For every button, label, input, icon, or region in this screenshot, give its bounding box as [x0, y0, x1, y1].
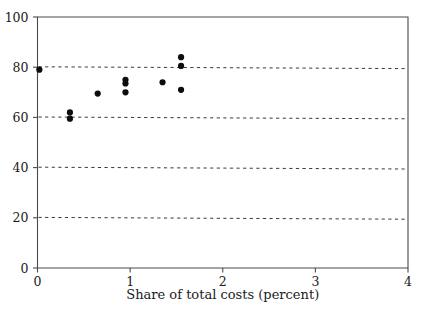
scatter-chart: 020406080100 01234 (0.02, 79)(0.35, 62)(… — [0, 0, 422, 312]
y-tick-label-40: 40 — [13, 160, 29, 175]
gridline-40 — [39, 167, 408, 169]
plot-frame — [38, 17, 409, 268]
data-point: (1.35, 74) — [159, 79, 165, 85]
axis-ticks — [33, 17, 408, 273]
x-tick-label-0: 0 — [34, 274, 42, 289]
y-tick-label-80: 80 — [13, 60, 29, 75]
gridline-20 — [39, 217, 408, 219]
data-point: (0.02, 79) — [36, 67, 42, 73]
y-tick-label-60: 60 — [13, 110, 29, 125]
x-tick-label-4: 4 — [404, 274, 412, 289]
y-tick-labels: 020406080100 — [5, 10, 29, 276]
x-axis-title-text: Share of total costs (percent) — [126, 287, 319, 302]
data-point: (1.55, 84) — [178, 54, 184, 60]
plot-border — [38, 17, 409, 268]
data-point: (0.95, 70) — [122, 89, 128, 95]
gridlines — [39, 67, 408, 219]
data-point: (1.55, 71) — [178, 87, 184, 93]
y-tick-label-20: 20 — [13, 210, 29, 225]
data-point: (0.35, 62) — [67, 109, 73, 115]
data-point: (0.35, 59.5) — [67, 116, 73, 122]
data-point: (0.65, 69.5) — [95, 90, 101, 96]
data-point: (1.55, 80.5) — [178, 63, 184, 69]
data-points: (0.02, 79)(0.35, 62)(0.35, 59.5)(0.65, 6… — [36, 54, 184, 122]
plot-canvas: 020406080100 01234 (0.02, 79)(0.35, 62)(… — [0, 0, 422, 312]
y-tick-label-100: 100 — [5, 10, 29, 25]
y-tick-label-0: 0 — [21, 261, 29, 276]
data-point: (0.95, 73.5) — [122, 80, 128, 86]
gridline-80 — [39, 67, 408, 69]
gridline-60 — [39, 117, 408, 119]
x-axis-title: Share of total costs (percent) — [126, 287, 319, 302]
